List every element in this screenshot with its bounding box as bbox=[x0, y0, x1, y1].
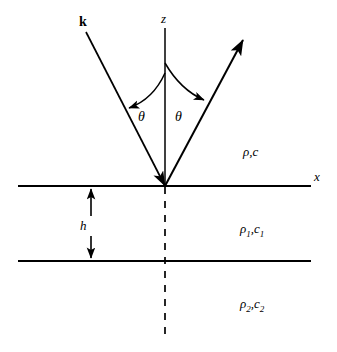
incident-angle-arc bbox=[129, 73, 165, 108]
layer-thickness-label: h bbox=[80, 219, 87, 232]
reflected-angle-arc bbox=[165, 63, 204, 100]
acoustic-reflection-diagram: k z x θ θ h ρ,c ρ1,c1 ρ2,c2 bbox=[0, 0, 337, 352]
middle-medium-label: ρ1,c1 bbox=[240, 222, 264, 239]
x-axis-label: x bbox=[314, 170, 320, 183]
reflected-angle-label: θ bbox=[175, 110, 182, 124]
incident-ray bbox=[86, 32, 165, 186]
z-axis-label: z bbox=[161, 12, 166, 25]
lower-medium-speed-sub: 2 bbox=[260, 304, 265, 314]
upper-medium-label: ρ,c bbox=[243, 145, 258, 158]
lower-medium-label: ρ2,c2 bbox=[240, 297, 264, 314]
incident-angle-label: θ bbox=[138, 110, 145, 124]
middle-medium-speed-sub: 1 bbox=[260, 229, 265, 239]
wave-vector-label: k bbox=[79, 15, 87, 29]
diagram-canvas bbox=[0, 0, 337, 352]
